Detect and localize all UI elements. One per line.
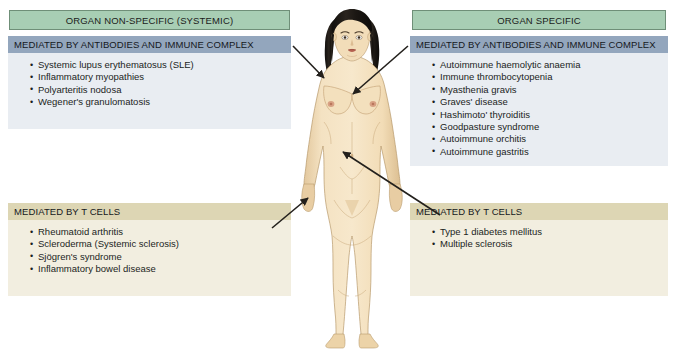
panel-right-antibody-mediated: MEDIATED BY ANTIBODIES AND IMMUNE COMPLE… bbox=[410, 36, 668, 166]
category-header-organ-specific: ORGAN SPECIFIC bbox=[412, 10, 666, 30]
list-item: Autoimmune haemolytic anaemia bbox=[432, 59, 662, 71]
human-body-illustration bbox=[300, 4, 404, 349]
list-item: Scleroderma (Systemic sclerosis) bbox=[30, 238, 285, 250]
panel-left-antibody-header: MEDIATED BY ANTIBODIES AND IMMUNE COMPLE… bbox=[8, 36, 291, 53]
list-item: Hashimoto' thyroiditis bbox=[432, 109, 662, 121]
panel-left-antibody-body: Systemic lupus erythematosus (SLE) Infla… bbox=[8, 53, 291, 129]
list-item: Rheumatoid arthritis bbox=[30, 226, 285, 238]
list-item: Autoimmune gastritis bbox=[432, 146, 662, 158]
disease-list-left-antibody: Systemic lupus erythematosus (SLE) Infla… bbox=[30, 59, 285, 109]
panel-right-antibody-body: Autoimmune haemolytic anaemia Immune thr… bbox=[410, 53, 668, 166]
panel-left-tcell-mediated: MEDIATED BY T CELLS Rheumatoid arthritis… bbox=[8, 203, 291, 296]
panel-left-antibody-header-label: MEDIATED BY ANTIBODIES AND IMMUNE COMPLE… bbox=[14, 39, 254, 50]
category-header-left-label: ORGAN NON-SPECIFIC (SYSTEMIC) bbox=[66, 15, 233, 26]
panel-left-tcell-body: Rheumatoid arthritis Scleroderma (System… bbox=[8, 220, 291, 296]
panel-right-tcell-header: MEDIATED BY T CELLS bbox=[410, 203, 668, 220]
list-item: Autoimmune orchitis bbox=[432, 133, 662, 145]
list-item: Systemic lupus erythematosus (SLE) bbox=[30, 59, 285, 71]
list-item: Polyarteritis nodosa bbox=[30, 84, 285, 96]
panel-left-tcell-header: MEDIATED BY T CELLS bbox=[8, 203, 291, 220]
panel-right-antibody-header-label: MEDIATED BY ANTIBODIES AND IMMUNE COMPLE… bbox=[416, 39, 656, 50]
category-header-right-label: ORGAN SPECIFIC bbox=[497, 15, 580, 26]
list-item: Wegener's granulomatosis bbox=[30, 96, 285, 108]
panel-right-antibody-header: MEDIATED BY ANTIBODIES AND IMMUNE COMPLE… bbox=[410, 36, 668, 53]
feet bbox=[326, 334, 379, 348]
list-item: Graves' disease bbox=[432, 96, 662, 108]
disease-list-right-tcell: Type 1 diabetes mellitus Multiple sclero… bbox=[432, 226, 662, 251]
panel-right-tcell-body: Type 1 diabetes mellitus Multiple sclero… bbox=[410, 220, 668, 296]
list-item: Myasthenia gravis bbox=[432, 84, 662, 96]
disease-list-left-tcell: Rheumatoid arthritis Scleroderma (System… bbox=[30, 226, 285, 276]
list-item: Immune thrombocytopenia bbox=[432, 71, 662, 83]
list-item: Goodpasture syndrome bbox=[432, 121, 662, 133]
list-item: Inflammatory bowel disease bbox=[30, 263, 285, 275]
panel-right-tcell-header-label: MEDIATED BY T CELLS bbox=[416, 206, 522, 217]
list-item: Multiple sclerosis bbox=[432, 238, 662, 250]
list-item: Sjögren's syndrome bbox=[30, 251, 285, 263]
list-item: Inflammatory myopathies bbox=[30, 71, 285, 83]
autoimmune-classification-figure: ORGAN NON-SPECIFIC (SYSTEMIC) ORGAN SPEC… bbox=[0, 0, 673, 362]
list-item: Type 1 diabetes mellitus bbox=[432, 226, 662, 238]
head bbox=[331, 9, 374, 62]
panel-left-tcell-header-label: MEDIATED BY T CELLS bbox=[14, 206, 120, 217]
panel-left-antibody-mediated: MEDIATED BY ANTIBODIES AND IMMUNE COMPLE… bbox=[8, 36, 291, 129]
category-header-organ-non-specific: ORGAN NON-SPECIFIC (SYSTEMIC) bbox=[9, 10, 290, 30]
disease-list-right-antibody: Autoimmune haemolytic anaemia Immune thr… bbox=[432, 59, 662, 158]
navel bbox=[351, 154, 354, 158]
panel-right-tcell-mediated: MEDIATED BY T CELLS Type 1 diabetes mell… bbox=[410, 203, 668, 296]
